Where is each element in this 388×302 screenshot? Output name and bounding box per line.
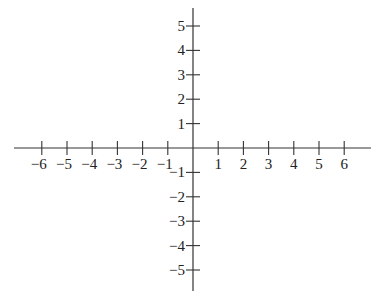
- x-tick-label: 4: [290, 156, 298, 172]
- y-tick-label: 1: [178, 116, 186, 132]
- x-tick-label: −2: [132, 156, 148, 172]
- x-tick-label: −3: [106, 156, 122, 172]
- x-tick-label: 1: [214, 156, 222, 172]
- x-tick-label: 6: [340, 156, 348, 172]
- x-tick-label: 5: [315, 156, 323, 172]
- y-tick-label: 3: [178, 67, 186, 83]
- y-tick-label: 2: [178, 91, 186, 107]
- y-tick-label: 5: [178, 18, 186, 34]
- x-axis-ticks: −6−5−4−3−2−1123456: [31, 141, 349, 172]
- coordinate-plane: −6−5−4−3−2−1123456 54321−1−2−3−4−5: [0, 0, 388, 302]
- x-tick-label: −6: [31, 156, 47, 172]
- y-tick-label: 4: [178, 42, 186, 58]
- y-tick-label: −4: [169, 238, 185, 254]
- y-tick-label: −1: [169, 164, 185, 180]
- x-tick-label: −5: [56, 156, 72, 172]
- y-tick-label: −5: [169, 262, 185, 278]
- x-tick-label: −4: [81, 156, 97, 172]
- x-tick-label: 2: [240, 156, 248, 172]
- x-tick-label: 3: [265, 156, 273, 172]
- y-tick-label: −2: [169, 189, 185, 205]
- y-tick-label: −3: [169, 213, 185, 229]
